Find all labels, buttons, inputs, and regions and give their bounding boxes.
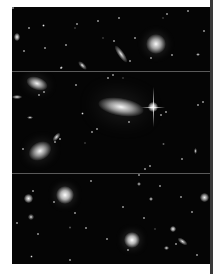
faint-star [91, 131, 93, 133]
faint-star [81, 64, 83, 66]
faint-star [149, 165, 151, 167]
star-object [137, 182, 141, 186]
faint-star [106, 238, 108, 240]
star-object [27, 116, 33, 119]
faint-star [12, 7, 14, 9]
star-object [42, 24, 45, 27]
panel-middle [12, 72, 210, 173]
faint-star [122, 206, 124, 208]
faint-star [90, 180, 92, 182]
galaxy-round [146, 34, 166, 54]
star-object [102, 37, 104, 39]
faint-star [44, 47, 46, 49]
star-object [69, 226, 71, 229]
faint-star [75, 84, 77, 86]
faint-star [165, 111, 167, 113]
star-object [196, 53, 200, 56]
star-object [30, 255, 33, 258]
galaxy-elliptical [97, 94, 145, 120]
faint-star [191, 211, 193, 213]
faint-star [128, 121, 130, 123]
faint-star [134, 37, 136, 39]
star-object [200, 193, 209, 202]
faint-star [74, 212, 76, 214]
star-object [84, 142, 86, 144]
star-object [14, 33, 20, 41]
faint-star [76, 23, 78, 25]
star-object [81, 112, 84, 115]
faint-star [85, 227, 87, 229]
faint-star [118, 17, 120, 19]
faint-star [54, 141, 56, 143]
faint-star [65, 44, 67, 46]
faint-star [143, 217, 145, 219]
faint-star [60, 67, 62, 69]
faint-star [203, 30, 205, 32]
star-object [170, 226, 176, 232]
faint-star [127, 249, 129, 251]
right-edge-rule [210, 0, 213, 274]
faint-star [202, 101, 204, 103]
faint-star [53, 201, 55, 203]
faint-star [96, 128, 98, 130]
faint-star [197, 104, 199, 106]
faint-star [28, 27, 30, 29]
faint-star [129, 60, 131, 62]
faint-star [187, 10, 189, 12]
faint-star [181, 158, 183, 160]
star-object [164, 246, 169, 250]
galaxy-spiral [24, 74, 49, 94]
faint-star [160, 114, 162, 116]
galaxy-edge [113, 44, 129, 64]
faint-star [166, 13, 168, 15]
faint-star [196, 254, 198, 256]
star-object [149, 197, 153, 201]
faint-star [138, 174, 140, 176]
galaxy-spiral [25, 137, 55, 165]
star-object [74, 27, 76, 29]
faint-star [23, 50, 25, 52]
faint-star [69, 259, 71, 261]
faint-star [22, 148, 24, 150]
star-object [122, 77, 124, 79]
faint-star [32, 190, 34, 192]
star-object [12, 95, 22, 99]
faint-star [37, 233, 39, 235]
faint-star [180, 196, 182, 198]
star-object [194, 148, 197, 154]
faint-star [107, 77, 109, 79]
star-object [24, 194, 33, 203]
star-object [28, 214, 34, 220]
galaxy-edge [51, 132, 61, 143]
galaxy-edge [77, 60, 88, 71]
galaxy-round [124, 232, 140, 248]
panel-top [12, 7, 210, 71]
faint-star [16, 222, 18, 224]
faint-star [59, 138, 61, 140]
faint-star [175, 243, 177, 245]
star-object [154, 228, 156, 230]
faint-star [112, 74, 114, 76]
star-object [162, 143, 165, 145]
galaxy-edge [177, 236, 189, 246]
faint-star [144, 168, 146, 170]
faint-star [97, 20, 99, 22]
panel-bottom [12, 174, 210, 264]
faint-star [159, 185, 161, 187]
diffraction-spike [153, 87, 154, 127]
star-object [162, 17, 164, 19]
galaxy-round [56, 186, 74, 204]
deep-field-figure [12, 7, 210, 264]
faint-star [43, 91, 45, 93]
faint-star [150, 57, 152, 59]
faint-star [38, 94, 40, 96]
faint-star [171, 54, 173, 56]
faint-star [113, 40, 115, 42]
